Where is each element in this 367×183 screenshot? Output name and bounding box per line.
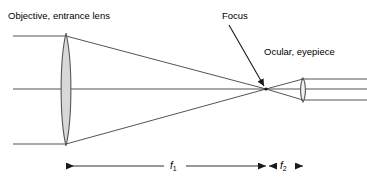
upper-diverging-ray: [266, 79, 303, 89]
f1-subscript: 1: [173, 165, 177, 172]
diverging-ray-group: [266, 79, 303, 100]
upper-converging-ray: [66, 36, 266, 89]
f2-subscript: 2: [283, 165, 287, 172]
objective-lens-label: Objective, entrance lens: [8, 11, 110, 21]
f1-label: f1: [170, 161, 177, 171]
lower-diverging-ray: [266, 89, 303, 100]
ocular-lens-label: Ocular, eyepiece: [264, 47, 335, 57]
ocular-lens: [301, 78, 306, 102]
lower-converging-ray: [66, 89, 266, 144]
optical-ray-diagram: [0, 0, 367, 183]
exit-ray-group: [301, 79, 367, 100]
diagram-canvas: Objective, entrance lens Focus Ocular, e…: [0, 0, 367, 183]
incoming-ray-group: [13, 36, 66, 144]
converging-ray-group: [66, 36, 266, 144]
focus-pointer-arrow: [229, 25, 264, 86]
objective-lens: [61, 33, 71, 146]
f2-label: f2: [280, 161, 287, 171]
focus-label: Focus: [222, 11, 248, 21]
focus-point-marker: [264, 87, 267, 90]
